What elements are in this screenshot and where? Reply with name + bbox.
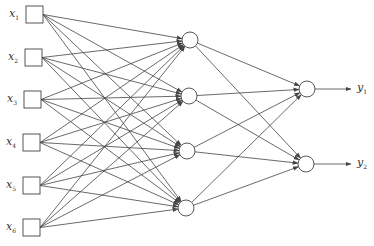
edge-x2-h2	[42, 58, 181, 94]
edge-x6-h1	[40, 46, 185, 227]
edge-x5-h1	[40, 46, 184, 186]
input-label-x1: x1	[9, 8, 19, 21]
input-node-x4	[23, 134, 40, 151]
input-label-x4: x4	[6, 136, 16, 149]
edge-x4-h1	[40, 45, 183, 143]
edge-x4-h4	[40, 143, 179, 205]
edge-h2-o2	[196, 100, 299, 160]
hidden-node-h2	[181, 88, 197, 104]
edge-x5-h4	[40, 186, 178, 207]
edge-h2-o1	[197, 89, 299, 95]
hidden-node-h4	[178, 200, 194, 216]
input-label-x2: x2	[8, 51, 18, 64]
output-node-o1	[299, 81, 315, 97]
edge-x5-h2	[40, 100, 182, 185]
input-node-x2	[25, 49, 42, 66]
edge-h1-o2	[195, 46, 300, 158]
input-node-x1	[26, 6, 43, 23]
edge-x4-h2	[40, 98, 181, 142]
edge-x3-h1	[41, 43, 183, 100]
edge-x5-h3	[40, 153, 179, 186]
edge-x6-h4	[40, 209, 178, 227]
edge-x3-h4	[41, 100, 180, 204]
neural-network-diagram: x1x2x3x4x5x6y1y2	[0, 0, 374, 246]
input-node-x3	[24, 91, 41, 108]
output-label-o2: y2	[357, 157, 367, 170]
input-label-x6: x6	[6, 221, 16, 234]
edge-x1-h4	[43, 15, 181, 202]
edge-h4-o2	[194, 167, 299, 205]
input-node-x5	[23, 177, 40, 194]
input-label-x3: x3	[7, 93, 17, 106]
input-label-x5: x5	[6, 179, 16, 192]
input-node-x6	[23, 219, 40, 236]
output-node-o2	[298, 156, 314, 172]
hidden-node-h3	[179, 143, 195, 159]
edge-x2-h1	[42, 41, 182, 58]
edge-h3-o2	[195, 152, 298, 163]
network-graph	[0, 0, 374, 246]
hidden-node-h1	[182, 32, 198, 48]
output-label-o1: y1	[357, 82, 367, 95]
edge-x2-h3	[42, 58, 180, 147]
edge-x3-h2	[41, 96, 181, 99]
